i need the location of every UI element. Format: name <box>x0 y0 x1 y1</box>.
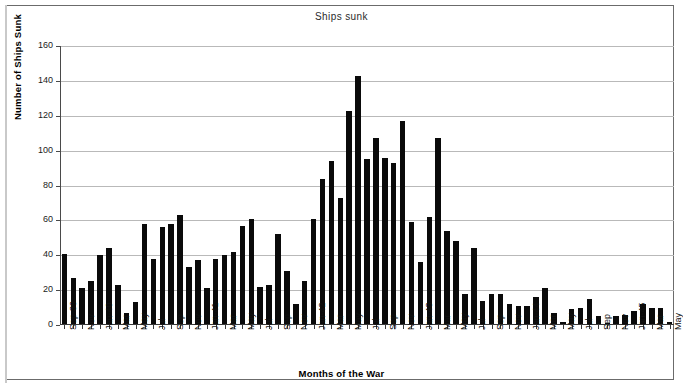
x-tick-label: May <box>673 313 683 330</box>
x-tick-label: Mar <box>335 315 345 331</box>
x-axis-title: Months of the War <box>0 368 683 379</box>
x-tick-label: Jan-45 <box>637 302 647 330</box>
x-tick-mark <box>331 325 332 329</box>
bar <box>578 308 584 325</box>
x-tick-label: Nov <box>86 314 96 330</box>
bar <box>115 285 121 325</box>
bar <box>293 304 299 325</box>
x-tick-mark <box>260 325 261 329</box>
bar <box>418 262 424 325</box>
x-tick-mark <box>367 325 368 329</box>
x-tick-label: Nov <box>406 314 416 330</box>
x-tick-label: Nov <box>193 314 203 330</box>
bar <box>364 159 370 325</box>
x-tick-label: Jul <box>264 318 274 330</box>
x-tick-mark <box>153 325 154 329</box>
bar-series <box>60 46 674 325</box>
chart-page: Ships sunk Number of Ships Sunk 02040608… <box>0 0 683 391</box>
x-tick-label: Jul <box>584 318 594 330</box>
x-tick-label: Jan-42 <box>317 302 327 330</box>
bar <box>257 287 263 325</box>
y-tick-label: 40 <box>13 249 53 259</box>
x-tick-label: Jul <box>371 318 381 330</box>
bar <box>329 161 335 325</box>
bar <box>373 138 379 325</box>
x-tick-mark <box>189 325 190 329</box>
bar <box>444 231 450 325</box>
x-tick-label: Sep <box>282 314 292 330</box>
x-tick-label: Mar <box>121 315 131 331</box>
bar <box>151 259 157 325</box>
y-axis-title: Number of Ships Sunk <box>12 0 23 120</box>
bar <box>391 163 397 325</box>
x-tick-mark <box>527 325 528 329</box>
x-tick-label: May <box>459 313 469 330</box>
x-tick-label: Jul <box>477 318 487 330</box>
bar <box>346 111 352 325</box>
x-tick-label: Jan-44 <box>531 302 541 330</box>
x-tick-label: Nov <box>299 314 309 330</box>
x-tick-mark <box>118 325 119 329</box>
bar <box>471 248 477 325</box>
bar <box>177 215 183 325</box>
x-tick-mark <box>296 325 297 329</box>
x-tick-mark <box>385 325 386 329</box>
x-tick-mark <box>634 325 635 329</box>
bar <box>542 288 548 325</box>
x-tick-label: Mar <box>442 315 452 331</box>
x-tick-mark <box>670 325 671 329</box>
x-tick-mark <box>456 325 457 329</box>
bar <box>168 224 174 325</box>
x-tick-label: Jul <box>157 318 167 330</box>
x-tick-mark <box>438 325 439 329</box>
x-tick-mark <box>563 325 564 329</box>
bar <box>355 76 361 325</box>
bar <box>631 311 637 325</box>
x-tick-mark <box>207 325 208 329</box>
bar <box>435 138 441 325</box>
y-tick-mark <box>56 325 60 326</box>
y-tick-label: 160 <box>13 40 53 50</box>
x-tick-label: May <box>246 313 256 330</box>
y-tick-label: 100 <box>13 145 53 155</box>
x-tick-mark <box>403 325 404 329</box>
x-tick-mark <box>64 325 65 329</box>
x-tick-label: Sep <box>495 314 505 330</box>
chart-title: Ships sunk <box>0 11 683 22</box>
x-tick-label: Sep <box>602 314 612 330</box>
x-tick-mark <box>100 325 101 329</box>
x-tick-mark <box>278 325 279 329</box>
x-tick-label: Nov <box>620 314 630 330</box>
bar <box>453 241 459 325</box>
bar <box>489 294 495 325</box>
y-tick-label: 80 <box>13 180 53 190</box>
bar <box>79 288 85 325</box>
x-tick-label: Sep-39 <box>68 301 78 330</box>
bar <box>382 158 388 325</box>
bar <box>142 224 148 325</box>
x-axis-line <box>60 324 674 325</box>
bar <box>240 226 246 325</box>
x-tick-mark <box>545 325 546 329</box>
plot-area: 020406080100120140160 <box>60 46 674 325</box>
x-tick-mark <box>349 325 350 329</box>
x-tick-mark <box>652 325 653 329</box>
x-tick-label: Sep <box>388 314 398 330</box>
bar <box>222 255 228 325</box>
x-tick-label: Jan-43 <box>424 302 434 330</box>
bar <box>275 234 281 325</box>
x-tick-label: May <box>353 313 363 330</box>
x-tick-mark <box>492 325 493 329</box>
x-tick-mark <box>598 325 599 329</box>
bar <box>133 302 139 325</box>
x-tick-mark <box>509 325 510 329</box>
bar <box>249 219 255 325</box>
x-tick-label: Mar <box>655 315 665 331</box>
y-tick-label: 60 <box>13 214 53 224</box>
x-tick-mark <box>420 325 421 329</box>
x-tick-label: Mar <box>228 315 238 331</box>
x-tick-label: May <box>566 313 576 330</box>
y-tick-label: 0 <box>13 319 53 329</box>
bar <box>311 219 317 325</box>
x-tick-mark <box>242 325 243 329</box>
